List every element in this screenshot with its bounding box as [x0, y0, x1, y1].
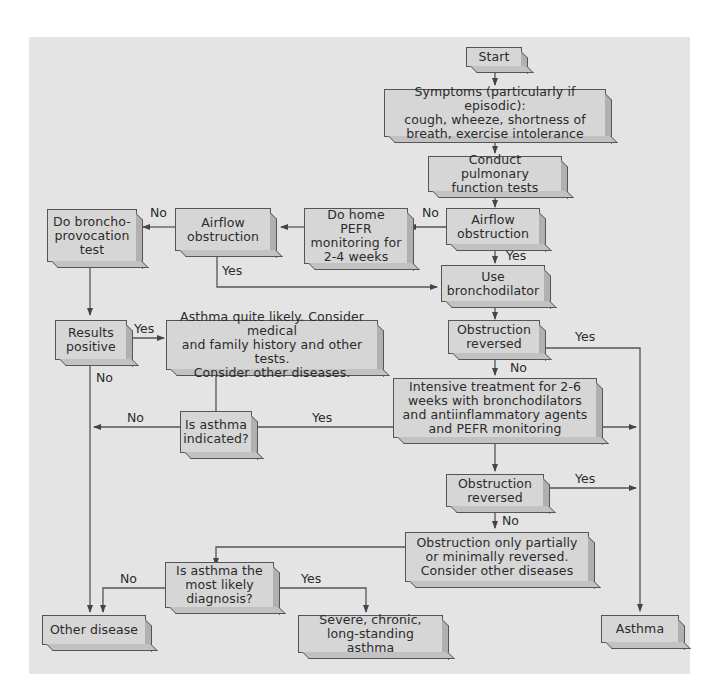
bronchodilator-label: Use bronchodilator: [447, 270, 539, 298]
start-label: Start: [478, 50, 509, 64]
bronchoprovocation-label: Do broncho- provocation test: [53, 215, 131, 257]
edge-label-indicated-yes: Yes: [312, 410, 332, 425]
obstruction-reversed-decision-2: Obstruction reversed: [446, 474, 544, 507]
asthma-node: Asthma: [601, 615, 679, 643]
airflow1-label: Airflow obstruction: [457, 213, 529, 241]
edge-label-reversed1-yes: Yes: [575, 329, 595, 344]
most-likely-diagnosis-decision: Is asthma the most likely diagnosis?: [165, 562, 274, 608]
obstruction-reversed-decision-1: Obstruction reversed: [448, 320, 540, 354]
airflow-obstruction-decision-2: Airflow obstruction: [175, 208, 271, 251]
edge-label-airflow1-yes: Yes: [506, 248, 526, 263]
airflow-obstruction-decision-1: Airflow obstruction: [446, 208, 540, 245]
partially-reversed-label: Obstruction only partially or minimally …: [416, 536, 577, 578]
asthma-quite-likely-node: Asthma quite likely. Consider medical an…: [166, 320, 378, 370]
intensive-label: Intensive treatment for 2-6 weeks with b…: [403, 380, 588, 436]
severe-label: Severe, chronic, long-standing asthma: [303, 613, 438, 655]
reversed2-label: Obstruction reversed: [458, 477, 532, 505]
start-node: Start: [466, 47, 522, 67]
edge-label-results-yes: Yes: [134, 321, 154, 336]
edge-label-airflow2-no: No: [150, 205, 167, 220]
results-label: Results positive: [66, 326, 116, 354]
is-asthma-indicated-decision: Is asthma indicated?: [180, 411, 252, 453]
edge-label-airflow1-no: No: [422, 205, 439, 220]
pft-label: Conduct pulmonary function tests: [433, 153, 557, 195]
edge-label-results-no: No: [96, 370, 113, 385]
symptoms-node: Symptoms (particularly if episodic): cou…: [384, 89, 606, 137]
bronchoprovocation-test-node: Do broncho- provocation test: [47, 209, 137, 262]
edge-label-likely-no: No: [120, 571, 137, 586]
edge-label-reversed1-no: No: [510, 360, 527, 375]
intensive-treatment-node: Intensive treatment for 2-6 weeks with b…: [393, 378, 597, 438]
pefr-label: Do home PEFR monitoring for 2-4 weeks: [311, 208, 402, 264]
partially-reversed-node: Obstruction only partially or minimally …: [405, 532, 589, 582]
edge-label-indicated-no: No: [127, 410, 144, 425]
home-pefr-monitoring-node: Do home PEFR monitoring for 2-4 weeks: [304, 208, 408, 264]
asthma-label: Asthma: [616, 622, 664, 636]
most-likely-label: Is asthma the most likely diagnosis?: [176, 564, 263, 606]
edge-label-reversed2-yes: Yes: [575, 471, 595, 486]
severe-chronic-asthma-node: Severe, chronic, long-standing asthma: [298, 615, 443, 653]
edge-label-reversed2-no: No: [502, 513, 519, 528]
pulmonary-function-tests-node: Conduct pulmonary function tests: [428, 156, 562, 192]
airflow2-label: Airflow obstruction: [187, 216, 259, 244]
asthma-likely-label: Asthma quite likely. Consider medical an…: [171, 310, 373, 380]
is-asthma-indicated-label: Is asthma indicated?: [183, 418, 249, 446]
edge-label-airflow2-yes: Yes: [222, 263, 242, 278]
other-disease-label: Other disease: [50, 623, 138, 637]
use-bronchodilator-node: Use bronchodilator: [441, 265, 545, 302]
other-disease-node: Other disease: [42, 615, 146, 645]
symptoms-label: Symptoms (particularly if episodic): cou…: [389, 85, 601, 141]
results-positive-decision: Results positive: [55, 320, 127, 360]
reversed1-label: Obstruction reversed: [457, 323, 531, 351]
edge-label-likely-yes: Yes: [301, 571, 321, 586]
